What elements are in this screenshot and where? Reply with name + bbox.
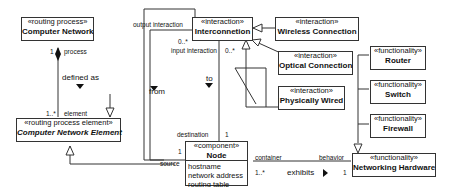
class-node[interactable]: «component» Node hostname network addres… [185, 141, 248, 186]
attribute-list: hostname network address routing table [186, 160, 247, 187]
class-name: Firewall [371, 124, 425, 133]
stereotype: «functionality» [353, 154, 435, 163]
exhibits-label: exhibits [287, 169, 314, 177]
stereotype: «interaction» [279, 87, 344, 96]
generalization-arrow-icon [66, 146, 74, 155]
class-name: Computer Network Element [17, 128, 120, 137]
stereotype: «routing process element» [17, 119, 120, 128]
direction-down-icon [76, 84, 84, 89]
stereotype: «interaction» [276, 18, 358, 27]
class-optical-connection[interactable]: «interaction» Optical Connection [278, 51, 353, 75]
class-name: Computer Network [22, 27, 93, 36]
input-multiplicity: 0..* [225, 48, 235, 55]
source-role: source [160, 161, 180, 168]
class-name: Networking Hardware [353, 163, 435, 172]
stereotype: «component» [186, 142, 247, 151]
class-name: Node [186, 151, 247, 160]
stereotype: «routing process» [22, 18, 93, 27]
class-firewall[interactable]: «functionality» Firewall [370, 114, 426, 138]
class-name: Physically Wired [279, 96, 344, 105]
element-multiplicity: 1..* [46, 111, 56, 118]
attribute: routing table [188, 180, 245, 187]
input-interaction-role: input interaction [171, 48, 217, 55]
class-router[interactable]: «functionality» Router [370, 46, 426, 70]
generalization-arrow-icon [253, 24, 262, 32]
class-computer-network[interactable]: «routing process» Computer Network [21, 17, 94, 41]
from-label: from [149, 88, 165, 96]
output-multiplicity: 0..* [178, 39, 188, 46]
generalization-arrow-icon [354, 144, 362, 153]
stereotype: «interaction» [279, 52, 352, 61]
class-name: Wireless Connection [276, 27, 358, 36]
behavior-role: behavior [319, 155, 344, 162]
element-role: element [64, 111, 87, 118]
class-name: Optical Connection [279, 61, 352, 70]
source-multiplicity: 1 [178, 149, 182, 156]
behavior-multiplicity: 1 [343, 170, 347, 177]
stereotype: «functionality» [371, 81, 425, 90]
process-role: process [64, 49, 87, 56]
generalization-arrow-icon [252, 39, 261, 46]
container-role: container [255, 155, 282, 162]
generalization-arrow-icon [106, 108, 114, 117]
attribute: hostname [188, 162, 245, 171]
defined-as-label: defined as [62, 74, 99, 82]
class-computer-network-element[interactable]: «routing process element» Computer Netwo… [16, 118, 121, 142]
generalization-arrow-icon [242, 40, 250, 49]
direction-right-icon [323, 169, 328, 177]
output-interaction-role: output interaction [133, 22, 183, 29]
container-multiplicity: 1..* [255, 170, 265, 177]
destination-multiplicity: 1 [225, 132, 229, 139]
stereotype: «functionality» [371, 47, 425, 56]
class-switch[interactable]: «functionality» Switch [370, 80, 426, 104]
stereotype: «functionality» [371, 115, 425, 124]
class-name: Interconnetion [193, 27, 252, 36]
stereotype: «interaction» [193, 18, 252, 27]
class-name: Switch [371, 90, 425, 99]
attribute: network address [188, 171, 245, 180]
class-name: Router [371, 56, 425, 65]
direction-down-icon [205, 83, 213, 88]
class-interconnection[interactable]: «interaction» Interconnetion [192, 17, 253, 41]
to-label: to [206, 75, 213, 83]
class-networking-hardware[interactable]: «functionality» Networking Hardware [352, 153, 436, 177]
class-physically-wired[interactable]: «interaction» Physically Wired [278, 86, 345, 110]
destination-role: destination [177, 132, 208, 139]
composition-diamond-icon [55, 47, 61, 61]
class-wireless-connection[interactable]: «interaction» Wireless Connection [275, 17, 359, 41]
process-multiplicity: 1 [50, 49, 54, 56]
